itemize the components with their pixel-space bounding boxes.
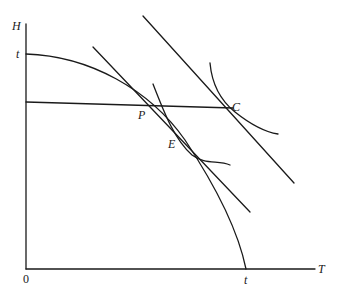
indifference-curve-e (153, 84, 230, 165)
origin-label: 0 (23, 272, 29, 286)
horizontal-line-p-to-c (26, 102, 233, 108)
point-c-label: C (232, 100, 241, 114)
diagram: H T 0 t t P E C (0, 0, 343, 299)
y-axis-label: H (11, 19, 22, 33)
y-intercept-label: t (16, 47, 20, 61)
x-axis-label: T (318, 262, 326, 276)
point-p-label: P (137, 108, 146, 122)
tangent-line-p-e (93, 47, 250, 212)
indifference-curve-c (210, 63, 278, 134)
x-intercept-label: t (244, 273, 248, 287)
point-e-label: E (167, 137, 176, 151)
tangent-line-c (143, 16, 294, 183)
